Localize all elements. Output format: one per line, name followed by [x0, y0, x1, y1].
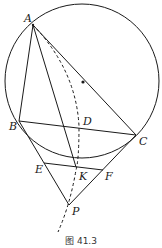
label-K: K [78, 170, 88, 183]
label-C: C [139, 135, 148, 148]
label-F: F [104, 170, 113, 183]
label-E: E [34, 163, 43, 176]
segment-EF [44, 163, 103, 170]
label-P: P [71, 205, 80, 218]
segment-BC [19, 121, 136, 135]
label-A: A [23, 12, 32, 25]
dashed-curve-ADKP [33, 25, 79, 232]
label-D: D [82, 115, 92, 128]
label-B: B [8, 120, 17, 133]
segment-AB [19, 25, 33, 121]
geometry-figure: A B C D E K F P 图 41.3 [0, 0, 162, 248]
figure-caption: 图 41.3 [65, 236, 97, 246]
point-A-dot [32, 24, 34, 26]
circle-center-dot [81, 80, 84, 83]
